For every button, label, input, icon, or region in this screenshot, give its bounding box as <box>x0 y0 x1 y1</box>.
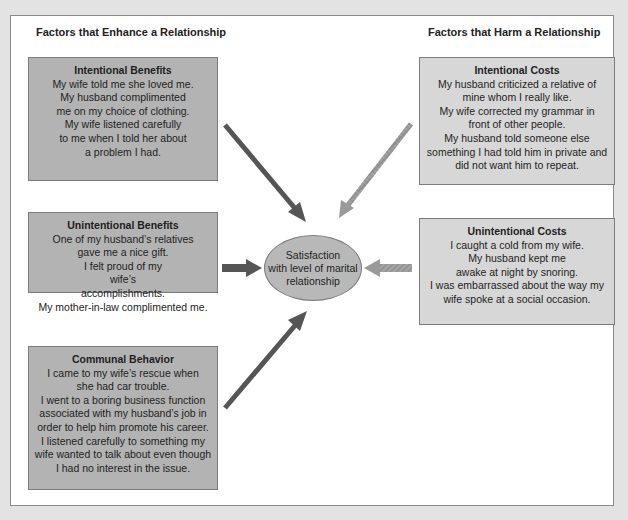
box-title: Communal Behavior <box>33 353 213 367</box>
box-item: I went to a boring business function ass… <box>33 394 213 435</box>
box-communal-behavior: Communal Behavior I came to my wife’s re… <box>28 346 218 490</box>
box-item: I caught a cold from my wife. <box>424 239 610 253</box>
box-item: My husband criticized a relative of mine… <box>424 78 610 105</box>
box-title: Intentional Benefits <box>33 64 213 78</box>
box-item: One of my husband’s relatives gave me a … <box>33 233 213 260</box>
box-item: I listened carefully to something my wif… <box>33 435 213 476</box>
box-item: My mother-in-law complimented me. <box>33 301 213 315</box>
box-item: My wife listened carefully to me when I … <box>33 118 213 159</box>
box-title: Intentional Costs <box>424 64 610 78</box>
box-unintentional-costs: Unintentional Costs I caught a cold from… <box>419 218 615 325</box>
box-item: My wife corrected my grammar in front of… <box>424 105 610 132</box>
box-unintentional-benefits: Unintentional Benefits One of my husband… <box>28 212 218 293</box>
satisfaction-ellipse: Satisfaction with level of marital relat… <box>264 235 362 301</box>
box-title: Unintentional Costs <box>424 225 610 239</box>
box-item: My husband kept me awake at night by sno… <box>424 252 610 279</box>
heading-harm: Factors that Harm a Relationship <box>428 26 600 38</box>
box-item: I came to my wife’s rescue when she had … <box>33 367 213 394</box>
ellipse-line: Satisfaction <box>268 249 357 262</box>
ellipse-line: with level of marital <box>268 262 357 275</box>
box-item: My husband told someone else something I… <box>424 132 610 173</box>
box-item: I was embarrassed about the way my wife … <box>424 279 610 306</box>
heading-enhance: Factors that Enhance a Relationship <box>36 26 226 38</box>
ellipse-line: relationship <box>268 275 357 288</box>
box-item: My husband complimented me on my choice … <box>33 91 213 118</box>
box-item: My wife told me she loved me. <box>33 78 213 92</box>
box-item: I felt proud of my wife’s accomplishment… <box>33 260 213 301</box>
box-intentional-costs: Intentional Costs My husband criticized … <box>419 57 615 185</box>
box-intentional-benefits: Intentional Benefits My wife told me she… <box>28 57 218 181</box>
box-title: Unintentional Benefits <box>33 219 213 233</box>
